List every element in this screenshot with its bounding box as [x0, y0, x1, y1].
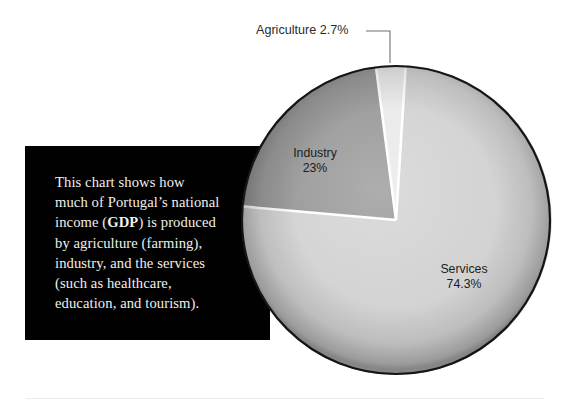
caption-line-5: industry, and the services	[55, 255, 205, 271]
label-industry-value: 23%	[270, 161, 360, 176]
caption-panel: This chart shows how much of Portugal’s …	[25, 146, 270, 340]
label-industry: Industry 23%	[270, 146, 360, 176]
label-services: Services 74.3%	[419, 262, 509, 292]
agriculture-leader-line	[366, 31, 390, 63]
caption-line-2: much of Portugal’s national	[55, 194, 219, 210]
pie-chart-figure: This chart shows how much of Portugal’s …	[0, 0, 571, 404]
caption-line-4: by agriculture (farming),	[55, 235, 202, 251]
caption-line-7: education, and tourism).	[55, 295, 199, 311]
label-agriculture: Agriculture 2.7%	[256, 23, 348, 38]
caption-line-6: (such as healthcare,	[55, 275, 172, 291]
caption-line-3-post: ) is produced	[138, 214, 216, 230]
bottom-divider-rule	[26, 398, 544, 399]
caption-text: This chart shows how much of Portugal’s …	[55, 172, 255, 313]
caption-line-3-pre: income (	[55, 214, 107, 230]
caption-line-1: This chart shows how	[55, 174, 185, 190]
label-agriculture-text: Agriculture 2.7%	[256, 23, 348, 37]
label-industry-name: Industry	[270, 146, 360, 161]
label-services-name: Services	[419, 262, 509, 277]
label-services-value: 74.3%	[419, 277, 509, 292]
caption-gdp-term: GDP	[107, 214, 138, 230]
